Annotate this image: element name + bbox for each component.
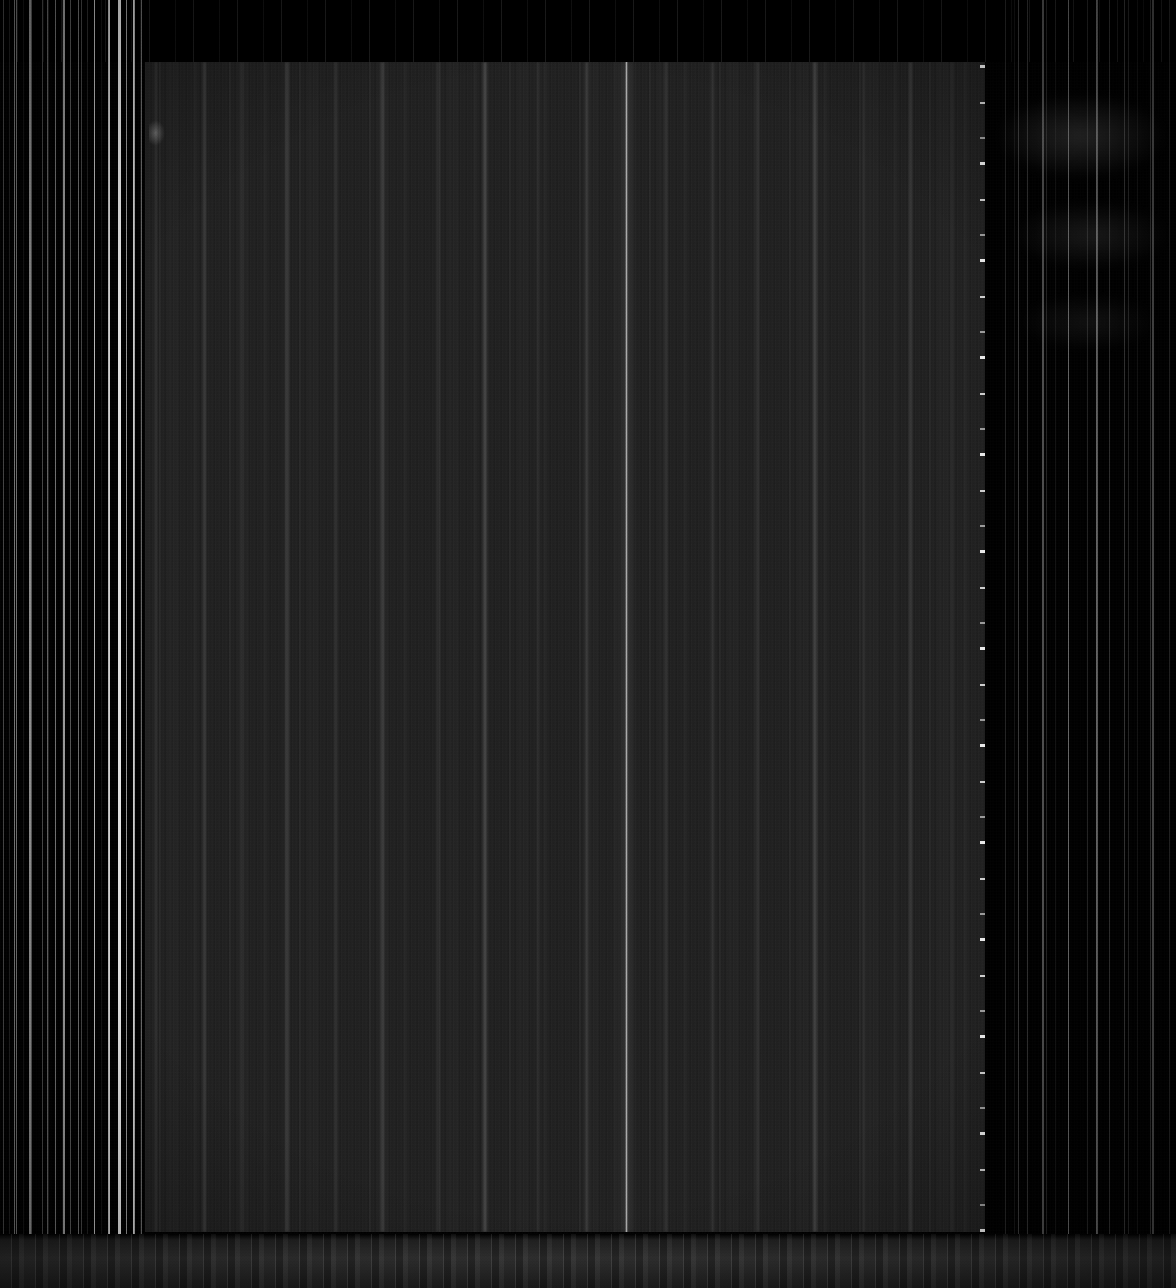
corner-scratch-artifact [149, 120, 165, 146]
detector-active-area [145, 62, 985, 1232]
panel-column-banding [145, 62, 985, 1232]
bottom-bleed-band [0, 1234, 1176, 1288]
bleed-columns [0, 1234, 1176, 1288]
bright-scan-column [625, 62, 628, 1232]
top-strip-columns [0, 0, 1176, 62]
hot-pixel-edge [980, 62, 985, 1232]
top-dark-strip [0, 0, 1176, 62]
raw-detector-frame: Very dark raw sensor frame showing a rec… [0, 0, 1176, 1288]
